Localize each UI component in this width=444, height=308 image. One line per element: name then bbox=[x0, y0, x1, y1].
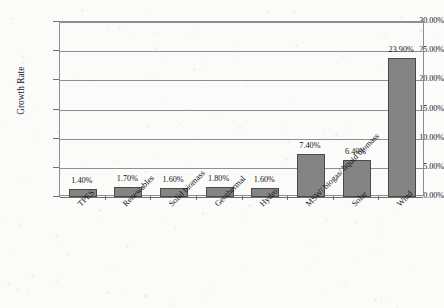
x-axis-tick bbox=[378, 196, 379, 200]
gridline bbox=[60, 22, 423, 23]
y-axis-tick bbox=[53, 196, 59, 197]
x-axis-tick bbox=[196, 196, 197, 200]
x-axis-tick bbox=[150, 196, 151, 200]
bar-value-label: 23.90% bbox=[371, 46, 431, 54]
x-axis-tick bbox=[333, 196, 334, 200]
x-axis-tick bbox=[242, 196, 243, 200]
y-axis-title: Growth Rate bbox=[17, 31, 26, 151]
x-axis-tick bbox=[287, 196, 288, 200]
x-axis-tick bbox=[105, 196, 106, 200]
gridline bbox=[60, 51, 423, 52]
plot-area bbox=[59, 21, 424, 196]
gridline bbox=[60, 110, 423, 111]
gridline bbox=[60, 80, 423, 81]
chart-figure: Growth Rate 0.00%5.00%10.00%15.00%20.00%… bbox=[0, 0, 444, 308]
bar bbox=[388, 58, 416, 197]
